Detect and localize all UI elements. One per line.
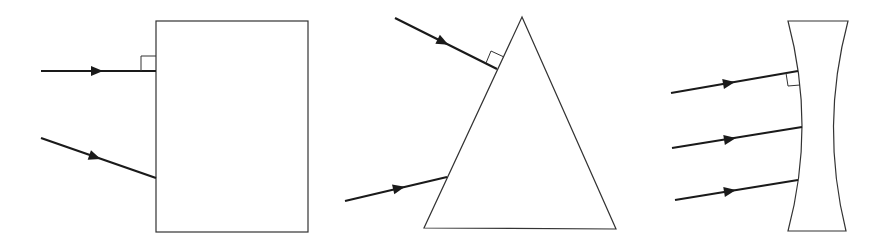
light-ray [675,180,798,200]
diagram-canvas [0,0,879,243]
arrow-icon [723,187,736,197]
optics-diagram [0,0,879,243]
triangular-prism-outline [424,17,616,229]
arrow-icon [88,150,101,159]
rectangular-block-outline [156,21,308,232]
arrow-icon [91,66,103,76]
rectangular-block [41,21,308,232]
triangular-prism [345,17,616,229]
concave-lens [671,21,848,231]
arrow-icon [392,185,405,195]
right-angle-marker-icon [786,73,800,86]
arrow-icon [723,135,736,145]
concave-lens-outline [788,21,848,231]
right-angle-marker-icon [141,56,156,71]
objects-group [41,17,848,232]
arrow-icon [722,79,735,89]
light-ray [672,127,802,148]
